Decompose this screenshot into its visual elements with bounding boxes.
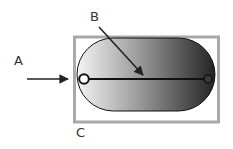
left-endpoint-circle [79, 74, 89, 84]
right-endpoint-circle [204, 75, 212, 83]
pill-body [77, 38, 215, 111]
diagram: A B C [0, 0, 233, 149]
label-a: A [14, 53, 23, 68]
label-c: C [76, 125, 85, 140]
label-b: B [90, 9, 99, 24]
